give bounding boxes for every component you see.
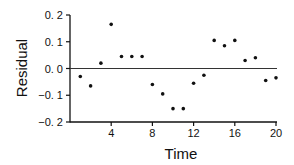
axes: [70, 15, 277, 123]
data-point: [140, 55, 144, 59]
x-tick-label: 8: [149, 127, 155, 139]
y-tick-label: 0. 1: [45, 36, 63, 48]
data-point: [161, 92, 165, 96]
x-tick-label: 20: [270, 127, 282, 139]
residual-chart: 0. 20. 10. 0−0. 1−0. 2 48121620 Time Res…: [0, 0, 294, 165]
data-point: [264, 79, 268, 83]
data-point: [212, 39, 216, 43]
data-point: [254, 56, 258, 60]
data-point: [79, 75, 83, 79]
x-axis-title: Time: [165, 145, 198, 162]
data-point: [202, 73, 206, 77]
data-point: [89, 84, 93, 88]
data-point: [223, 44, 227, 48]
x-tick-label: 4: [108, 127, 114, 139]
y-ticks: 0. 20. 10. 0−0. 1−0. 2: [38, 9, 70, 128]
data-point: [233, 39, 237, 43]
data-point: [130, 55, 134, 59]
x-tick-label: 16: [229, 127, 241, 139]
data-point: [99, 61, 103, 65]
data-point: [151, 83, 155, 87]
y-tick-label: −0. 1: [38, 89, 63, 101]
data-point: [243, 59, 247, 63]
data-points: [79, 23, 278, 111]
y-axis-title: Residual: [13, 39, 30, 97]
data-point: [109, 23, 113, 27]
y-tick-label: 0. 2: [45, 9, 63, 21]
y-tick-label: 0. 0: [45, 63, 63, 75]
x-ticks: 48121620: [108, 122, 282, 139]
y-tick-label: −0. 2: [38, 116, 63, 128]
data-point: [274, 76, 278, 80]
x-tick-label: 12: [187, 127, 199, 139]
data-point: [182, 107, 186, 111]
data-point: [120, 55, 124, 59]
data-point: [192, 81, 196, 85]
data-point: [171, 107, 175, 111]
